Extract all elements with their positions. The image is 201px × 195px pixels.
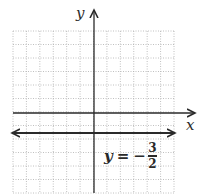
equation-variable: y — [104, 147, 113, 165]
coordinate-graph — [0, 0, 201, 195]
x-axis-label: x — [186, 116, 194, 134]
equation-equals: = — [117, 147, 130, 165]
equation-label: y = − 3 2 — [104, 142, 157, 170]
fraction-denominator: 2 — [148, 158, 156, 170]
equation-minus: − — [133, 147, 146, 165]
equation-fraction: 3 2 — [148, 142, 157, 170]
fraction-numerator: 3 — [148, 142, 156, 154]
y-axis-label: y — [76, 4, 84, 22]
